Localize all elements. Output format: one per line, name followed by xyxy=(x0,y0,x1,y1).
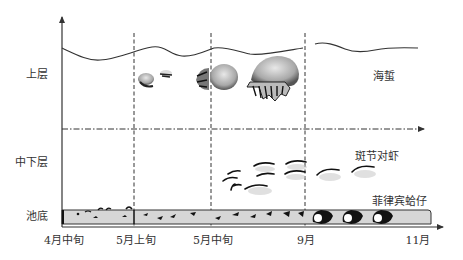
jellyfish-icon xyxy=(138,73,154,87)
layer-label-upper: 上层 xyxy=(0,69,48,80)
jellyfish-icon xyxy=(196,64,238,90)
time-label-4月中旬: 4月中旬 xyxy=(44,235,84,246)
jellyfish-icon xyxy=(247,56,299,101)
species-label-shrimp: 斑节对虾 xyxy=(355,151,399,162)
jellyfish-icon xyxy=(160,70,172,77)
water-surface-wave xyxy=(315,43,418,52)
species-label-jellyfish: 海蜇 xyxy=(373,71,395,82)
polyculture-diagram xyxy=(0,0,463,260)
time-label-11月: 11月 xyxy=(406,235,431,246)
clam-icons xyxy=(313,210,393,224)
time-label-9月: 9月 xyxy=(297,235,315,246)
layer-label-bottom: 池底 xyxy=(0,211,48,222)
time-label-5月上旬: 5月上旬 xyxy=(116,235,156,246)
water-surface-wave xyxy=(62,47,303,60)
layer-label-middle-lower: 中下层 xyxy=(0,157,48,168)
time-label-5月中旬: 5月中旬 xyxy=(193,235,233,246)
species-label-clam: 菲律宾蛤仔 xyxy=(372,196,427,207)
